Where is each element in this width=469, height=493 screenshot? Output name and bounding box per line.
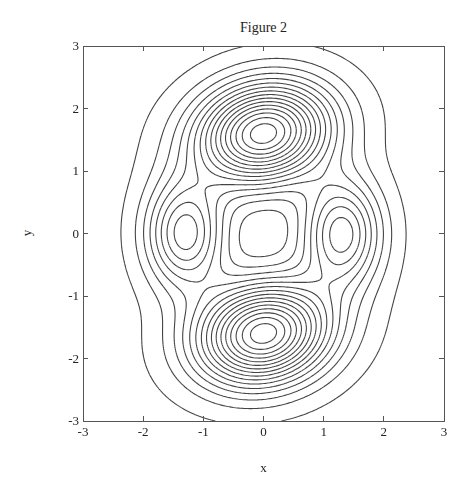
y-tick [439, 358, 444, 359]
x-tick-label: 2 [372, 425, 396, 438]
x-tick [444, 46, 445, 51]
x-axis-label: x [83, 460, 444, 476]
contour-lines [83, 46, 444, 421]
y-tick-label: -1 [59, 289, 79, 302]
y-tick [83, 46, 88, 47]
x-tick [143, 416, 144, 421]
y-tick-label: 1 [59, 164, 79, 177]
x-tick [383, 416, 384, 421]
y-axis-label: y [19, 230, 35, 237]
x-tick-label: -2 [131, 425, 155, 438]
y-tick [439, 296, 444, 297]
y-tick-label: 2 [59, 102, 79, 115]
y-tick [83, 171, 88, 172]
x-tick-label: 1 [312, 425, 336, 438]
y-tick-label: -2 [59, 352, 79, 365]
y-tick [439, 108, 444, 109]
x-tick [323, 416, 324, 421]
x-tick [323, 46, 324, 51]
y-tick [83, 296, 88, 297]
y-tick-label: 0 [59, 227, 79, 240]
y-tick [83, 421, 88, 422]
x-tick-label: 0 [252, 425, 276, 438]
x-tick [83, 46, 84, 51]
y-tick [439, 46, 444, 47]
x-tick [263, 416, 264, 421]
x-tick-label: 3 [432, 425, 456, 438]
y-tick [439, 171, 444, 172]
y-tick [83, 108, 88, 109]
y-tick [439, 421, 444, 422]
x-tick [143, 46, 144, 51]
x-tick [203, 416, 204, 421]
y-tick [439, 233, 444, 234]
chart-title: Figure 2 [83, 20, 444, 36]
y-tick-label: 3 [59, 39, 79, 52]
x-tick [203, 46, 204, 51]
x-tick-label: -1 [191, 425, 215, 438]
x-tick [263, 46, 264, 51]
plot-area [83, 46, 444, 421]
y-tick-label: -3 [59, 414, 79, 427]
y-tick [83, 233, 88, 234]
y-tick [83, 358, 88, 359]
x-tick [383, 46, 384, 51]
